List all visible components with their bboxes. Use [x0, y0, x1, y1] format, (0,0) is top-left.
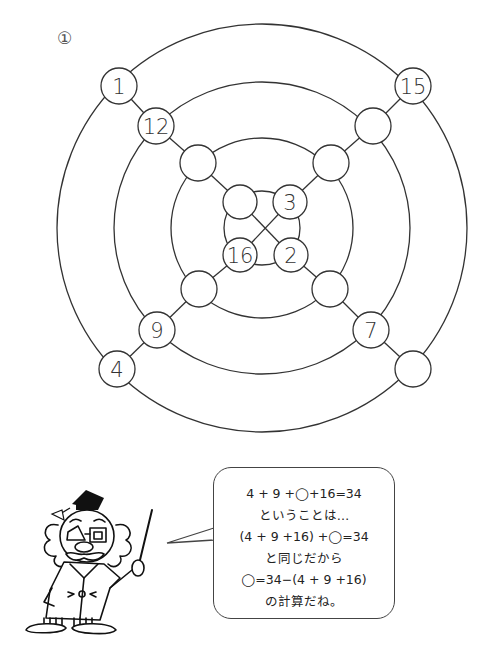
bubble-line: ということは…: [213, 505, 395, 527]
number-node: 12: [138, 108, 174, 144]
magic-circle-diagram: 115123162974: [0, 0, 493, 450]
node-circle[interactable]: [313, 145, 349, 181]
node-circle[interactable]: [355, 108, 391, 144]
number-node: 2: [274, 238, 308, 272]
number-node: 1: [101, 68, 137, 104]
number-node: 4: [99, 351, 135, 387]
node-value: 9: [150, 319, 163, 343]
node-value: 4: [110, 358, 123, 382]
bubble-line: (4 + 9 +16) +◯=34: [213, 526, 395, 548]
bubble-line: と同じだから: [213, 548, 395, 570]
bubble-line: の計算だね。: [213, 591, 395, 613]
speech-bubble-text: 4 + 9 +◯+16=34 ということは… (4 + 9 +16) +◯=34…: [213, 483, 395, 613]
number-node: 15: [395, 68, 431, 104]
blank-answer-node[interactable]: [223, 185, 257, 219]
number-node: 7: [353, 312, 389, 348]
blank-answer-node[interactable]: [180, 145, 216, 181]
bubble-line: ◯=34−(4 + 9 +16): [213, 569, 395, 591]
blank-answer-node[interactable]: [313, 145, 349, 181]
worksheet-page: ① 115123162974: [0, 0, 493, 663]
blank-answer-node[interactable]: [395, 351, 431, 387]
bubble-line: 4 + 9 +◯+16=34: [213, 483, 395, 505]
node-value: 12: [143, 115, 170, 139]
node-circle[interactable]: [223, 185, 257, 219]
node-circle[interactable]: [181, 271, 217, 307]
node-circle[interactable]: [180, 145, 216, 181]
node-value: 16: [227, 244, 254, 268]
node-value: 7: [364, 319, 377, 343]
node-value: 3: [283, 191, 296, 215]
node-value: 1: [112, 75, 125, 99]
number-node: 16: [223, 238, 257, 272]
node-value: 15: [400, 75, 427, 99]
node-circle[interactable]: [395, 351, 431, 387]
blank-answer-node[interactable]: [312, 271, 348, 307]
node-circle[interactable]: [312, 271, 348, 307]
number-node: 3: [273, 185, 307, 219]
node-value: 2: [284, 244, 297, 268]
number-node: 9: [139, 312, 175, 348]
blank-answer-node[interactable]: [181, 271, 217, 307]
blank-answer-node[interactable]: [355, 108, 391, 144]
